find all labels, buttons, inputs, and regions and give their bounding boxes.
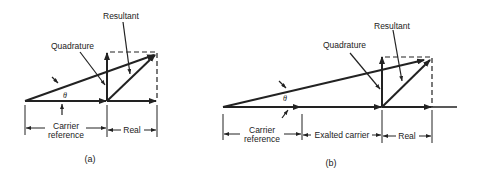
diagram-a [25, 22, 157, 137]
phasor-diagrams: Resultant Quadrature θ Carrier reference… [0, 0, 482, 180]
resultant-vector [25, 55, 154, 101]
resultant-pointer [393, 30, 402, 81]
label-carrier-reference-a-line2: reference [48, 130, 84, 140]
caption-b: (b) [326, 158, 337, 168]
label-quadrature-b: Quadrature [323, 40, 366, 50]
resultant-vector [223, 60, 424, 107]
caption-a: (a) [85, 154, 96, 164]
label-quadrature-a: Quadrature [51, 41, 94, 51]
label-resultant-a: Resultant [103, 11, 140, 21]
label-real-b: Real [398, 131, 416, 141]
resultant-vector-component [382, 60, 430, 107]
label-exalted-carrier-b: Exalted carrier [315, 130, 370, 140]
label-real-a: Real [123, 125, 141, 135]
theta-pointer-top [279, 81, 286, 88]
label-theta-a: θ [63, 91, 67, 100]
label-carrier-reference-b-line2: reference [244, 134, 280, 144]
theta-pointer-bottom [282, 110, 288, 118]
label-theta-b: θ [283, 94, 287, 103]
resultant-vector-component [107, 55, 155, 101]
theta-pointer-top [52, 77, 58, 83]
label-resultant-b: Resultant [374, 21, 411, 31]
